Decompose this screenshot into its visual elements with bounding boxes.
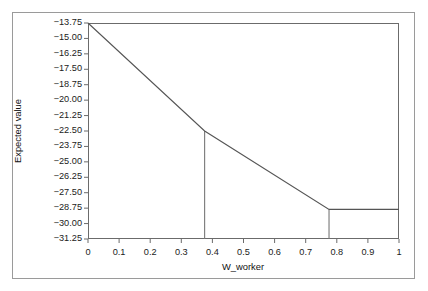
- x-axis-tick-label: 0.3: [175, 248, 188, 257]
- x-axis-tick-label: 0.6: [268, 248, 281, 257]
- x-axis-tick-label: 0.8: [330, 248, 343, 257]
- y-axis-title: Expected value: [12, 99, 23, 163]
- x-axis-tick-label: 0.1: [113, 248, 126, 257]
- x-axis-title: W_worker: [222, 261, 264, 272]
- x-axis-tick-label: 0.4: [206, 248, 219, 257]
- x-axis-tick-label: 0.7: [299, 248, 312, 257]
- x-axis-tick-label: 0.9: [362, 248, 375, 257]
- x-axis-tick-label: 0.2: [144, 248, 157, 257]
- figure-canvas: −13.75−15.00−16.25−17.50−18.75−20.00−21.…: [0, 0, 428, 291]
- x-axis-tick-label: 0.5: [237, 248, 250, 257]
- x-axis-tick-label-group: 00.10.20.30.40.50.60.70.80.91: [0, 0, 428, 291]
- x-axis-tick-label: 0: [85, 248, 90, 257]
- x-axis-tick-label: 1: [396, 248, 401, 257]
